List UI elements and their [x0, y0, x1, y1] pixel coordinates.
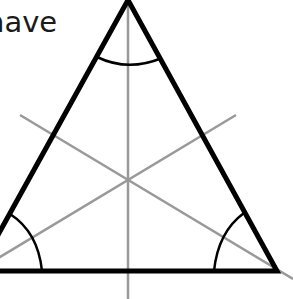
left-bisector — [20, 115, 293, 279]
apex-angle-arc — [97, 57, 162, 65]
triangle-diagram — [0, 0, 293, 299]
triangle-outline — [0, 0, 277, 271]
